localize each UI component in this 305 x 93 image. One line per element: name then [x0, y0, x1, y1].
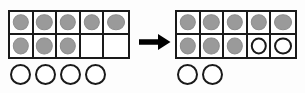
- ten-frame-cell: [271, 35, 295, 58]
- loose-counter: [177, 64, 198, 85]
- ten-frame-cell: [10, 12, 34, 35]
- ten-frame-cell: [201, 12, 225, 35]
- ten-frame-cell: [57, 12, 81, 35]
- ten-frame-right: [175, 10, 297, 59]
- counter-dot: [250, 14, 266, 30]
- ten-frame-cell: [81, 35, 105, 58]
- ten-frame-cell: [224, 12, 248, 35]
- loose-counter: [10, 64, 31, 85]
- ten-frame-left: [8, 10, 130, 59]
- ten-frame-cell: [248, 35, 272, 58]
- counter-dot: [36, 14, 52, 30]
- ten-frame-cell: [248, 12, 272, 35]
- ten-frame-cell: [104, 35, 128, 58]
- counter-dot: [227, 37, 243, 54]
- loose-counter: [202, 64, 223, 85]
- ten-frame-cell: [81, 12, 105, 35]
- ten-frame-cell: [34, 35, 58, 58]
- ten-frame-cell: [271, 12, 295, 35]
- loose-counter: [60, 64, 81, 85]
- counter-dot: [83, 14, 99, 30]
- ten-frame-cell: [104, 12, 128, 35]
- right-arrow-icon: [139, 33, 171, 51]
- ten-frame-cell: [224, 35, 248, 58]
- counter-dot: [180, 14, 196, 30]
- ten-frame-cell: [177, 35, 201, 58]
- counter-dot: [107, 14, 125, 30]
- counter-dot: [36, 37, 52, 54]
- counter-dot: [60, 14, 76, 30]
- counter-dot: [250, 37, 266, 54]
- counter-dot: [274, 14, 292, 30]
- loose-counter: [85, 64, 106, 85]
- counter-dot: [203, 14, 219, 30]
- counter-dot: [60, 37, 76, 54]
- ten-frame-cell: [201, 35, 225, 58]
- ten-frame-cell: [177, 12, 201, 35]
- counter-dot: [227, 14, 243, 30]
- ten-frame-figure: [0, 0, 305, 93]
- counter-dot: [203, 37, 219, 54]
- loose-counters-left: [10, 64, 106, 85]
- ten-frame-cell: [10, 35, 34, 58]
- counter-dot: [13, 14, 29, 30]
- ten-frame-cell: [34, 12, 58, 35]
- ten-frame-cell: [57, 35, 81, 58]
- counter-dot: [180, 37, 196, 54]
- loose-counter: [35, 64, 56, 85]
- loose-counters-right: [177, 64, 223, 85]
- counter-dot: [13, 37, 29, 54]
- counter-dot: [274, 37, 292, 54]
